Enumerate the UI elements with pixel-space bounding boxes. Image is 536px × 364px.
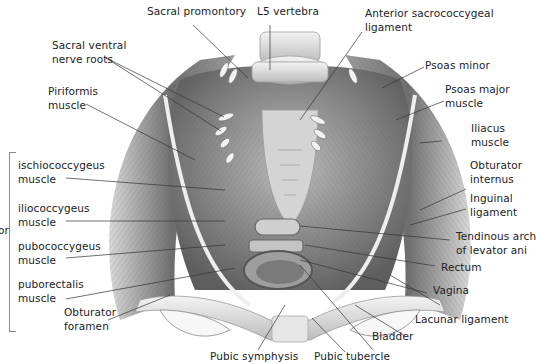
label-obturator-internus: Obturator internus <box>470 158 522 186</box>
label-lacunar-ligament: Lacunar ligament <box>415 312 508 326</box>
label-rectum: Rectum <box>441 260 482 274</box>
label-pubic-symphysis: Pubic symphysis <box>210 349 298 363</box>
label-bladder: Bladder <box>372 329 413 343</box>
label-ischiococcygeus-muscle: ischiococcygeus muscle <box>18 158 105 186</box>
label-tendinous-arch: Tendinous arch of levator ani <box>456 229 536 257</box>
levator-ani-group-label-partial: or <box>0 223 9 237</box>
rectum-shape <box>255 219 300 235</box>
label-vagina: Vagina <box>433 283 469 297</box>
label-obturator-foramen: Obturator foramen <box>64 305 116 333</box>
label-puborectalis-muscle: puborectalis muscle <box>18 277 84 305</box>
label-anterior-sacrococcygeal-ligament: Anterior sacrococcygeal ligament <box>365 6 494 34</box>
label-pubococcygeus-muscle: pubococcygeus muscle <box>18 239 101 267</box>
label-piriformis-muscle: Piriformis muscle <box>48 84 98 112</box>
levator-ani-group-bracket <box>9 152 16 332</box>
label-inguinal-ligament: Inguinal ligament <box>470 191 517 219</box>
label-sacral-promontory: Sacral promontory <box>147 4 246 18</box>
label-psoas-major-muscle: Psoas major muscle <box>445 82 510 110</box>
label-psoas-minor: Psoas minor <box>425 58 490 72</box>
label-pubic-tubercle: Pubic tubercle <box>314 349 390 363</box>
label-iliacus-muscle: Iliacus muscle <box>471 121 509 149</box>
label-sacral-ventral-nerve-roots: Sacral ventral nerve roots <box>52 38 126 66</box>
label-l5-vertebra: L5 vertebra <box>257 4 319 18</box>
label-iliococcygeus-muscle: iliococcygeus muscle <box>18 201 90 229</box>
pubic-symphysis-shape <box>272 316 308 342</box>
